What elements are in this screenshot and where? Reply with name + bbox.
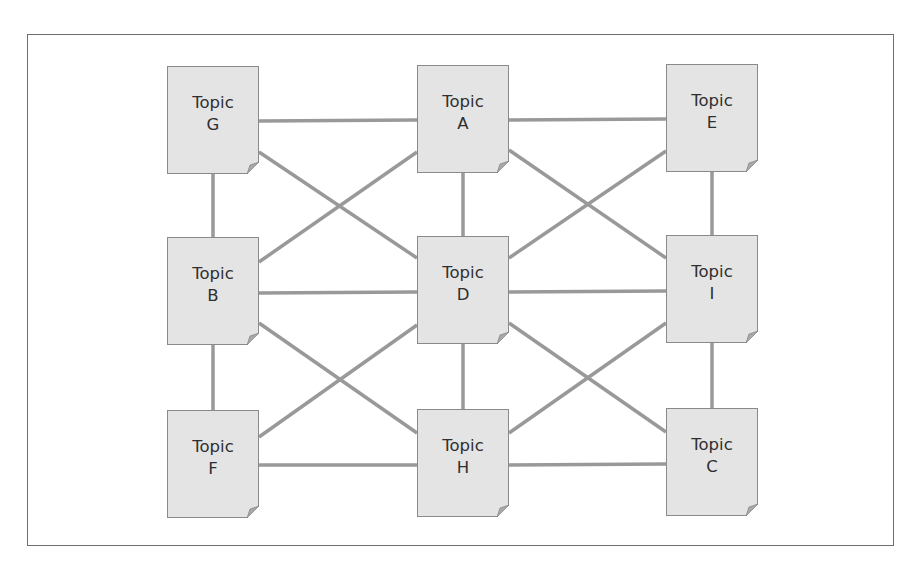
edge-h-c <box>509 464 666 465</box>
page-curl-icon <box>497 161 509 173</box>
edge-g-a <box>259 120 417 121</box>
topic-letter: E <box>707 112 717 134</box>
topic-letter: I <box>710 283 715 305</box>
edge-b-h <box>259 323 417 433</box>
topic-node-a: Topic A <box>417 65 509 173</box>
topic-label: Topic <box>691 261 733 283</box>
edge-f-d <box>259 325 417 437</box>
topic-letter: B <box>207 285 218 307</box>
topic-label: Topic <box>442 91 484 113</box>
page-curl-icon <box>746 504 758 516</box>
topic-node-i: Topic I <box>666 235 758 343</box>
topic-node-f: Topic F <box>167 410 259 518</box>
page-curl-icon <box>247 333 259 345</box>
page-curl-icon <box>247 162 259 174</box>
topic-node-c: Topic C <box>666 408 758 516</box>
topic-label: Topic <box>691 434 733 456</box>
topic-label: Topic <box>442 435 484 457</box>
topic-label: Topic <box>442 262 484 284</box>
topic-label: Topic <box>192 263 234 285</box>
topic-node-b: Topic B <box>167 237 259 345</box>
page-curl-icon <box>746 160 758 172</box>
topic-node-h: Topic H <box>417 409 509 517</box>
page-curl-icon <box>746 331 758 343</box>
topic-letter: H <box>457 457 469 479</box>
topic-node-e: Topic E <box>666 64 758 172</box>
topic-node-g: Topic G <box>167 66 259 174</box>
page-curl-icon <box>497 332 509 344</box>
topic-label: Topic <box>691 90 733 112</box>
page-curl-icon <box>247 506 259 518</box>
topic-label: Topic <box>192 92 234 114</box>
topic-letter: D <box>457 284 470 306</box>
topic-letter: G <box>207 114 220 136</box>
edge-a-e <box>509 119 666 120</box>
topic-label: Topic <box>192 436 234 458</box>
edge-d-i <box>509 291 666 292</box>
page-curl-icon <box>497 505 509 517</box>
topic-letter: C <box>706 456 718 478</box>
edge-b-d <box>259 292 417 293</box>
topic-letter: A <box>457 113 468 135</box>
topic-letter: F <box>208 458 218 480</box>
topic-node-d: Topic D <box>417 236 509 344</box>
